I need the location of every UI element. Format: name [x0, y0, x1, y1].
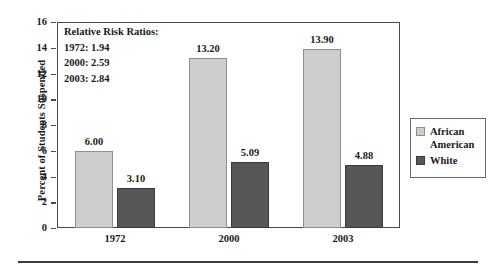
y-tick-mark: [51, 74, 56, 75]
y-tick-label: 10: [37, 92, 48, 105]
y-tick-12: 12: [0, 74, 56, 75]
y-tick-label: 8: [42, 118, 47, 131]
y-tick-10: 10: [0, 99, 56, 100]
y-tick-16: 16: [0, 22, 56, 23]
y-tick-label: 16: [37, 15, 48, 28]
y-tick-8: 8: [0, 125, 56, 126]
y-tick-6: 6: [0, 151, 56, 152]
legend-label-white: White: [430, 154, 485, 167]
bar-value-label: 6.00: [69, 136, 119, 148]
legend-item-african-american: African American: [416, 125, 485, 151]
legend-item-white: White: [416, 154, 485, 167]
legend-swatch-icon-african-american: [416, 127, 425, 136]
bar-1972-african-american: [75, 151, 113, 228]
annotation-line-3: 2003: 2.84: [64, 71, 159, 87]
x-tick-label-2000: 2000: [175, 233, 283, 244]
annotation-line-1: 1972: 1.94: [64, 40, 159, 56]
bar-value-label: 4.88: [339, 150, 389, 162]
y-tick-label: 2: [42, 195, 47, 208]
legend-swatch-icon-white: [416, 156, 425, 165]
bar-2003-white: [345, 165, 383, 228]
y-tick-label: 6: [42, 144, 47, 157]
bar-value-label: 13.20: [183, 43, 233, 55]
annotation-heading: Relative Risk Ratios:: [64, 24, 159, 40]
y-tick-mark: [51, 22, 56, 23]
chart-legend: African American White: [410, 118, 486, 178]
bar-2000-african-american: [189, 58, 227, 228]
annotation-line-2: 2000: 2.59: [64, 55, 159, 71]
bar-value-label: 3.10: [111, 173, 161, 185]
y-tick-mark: [51, 228, 56, 229]
bar-chart-figure: Percent of Students Suspended 0246810121…: [0, 0, 496, 270]
y-tick-mark: [51, 48, 56, 49]
y-tick-label: 12: [37, 67, 48, 80]
bar-1972-white: [117, 188, 155, 228]
y-tick-mark: [51, 125, 56, 126]
y-tick-mark: [51, 99, 56, 100]
x-tick-label-1972: 1972: [61, 233, 169, 244]
y-tick-14: 14: [0, 48, 56, 49]
bottom-divider-rule: [18, 261, 478, 263]
y-tick-label: 14: [37, 41, 48, 54]
y-tick-4: 4: [0, 177, 56, 178]
legend-label-african-american: African American: [430, 125, 485, 151]
x-tick-label-2003: 2003: [289, 233, 397, 244]
relative-risk-annotation: Relative Risk Ratios: 1972: 1.94 2000: 2…: [64, 24, 159, 86]
y-tick-mark: [51, 151, 56, 152]
y-tick-label: 0: [42, 221, 47, 234]
y-tick-mark: [51, 202, 56, 203]
bar-value-label: 13.90: [297, 34, 347, 46]
y-tick-0: 0: [0, 228, 56, 229]
bar-2000-white: [231, 162, 269, 228]
bar-value-label: 5.09: [225, 147, 275, 159]
y-tick-mark: [51, 177, 56, 178]
bar-2003-african-american: [303, 49, 341, 228]
y-tick-label: 4: [42, 170, 47, 183]
y-tick-2: 2: [0, 202, 56, 203]
